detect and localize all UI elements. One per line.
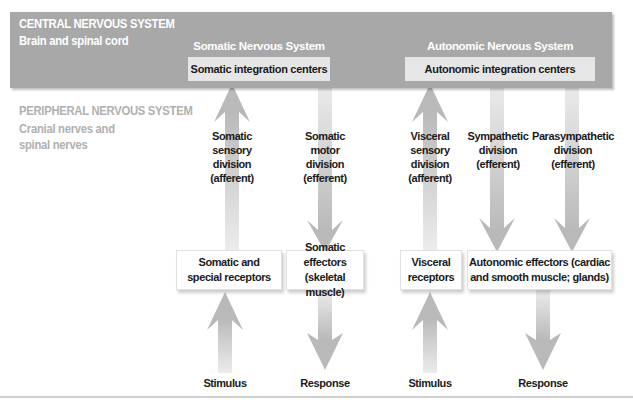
response-arrow-down-icon bbox=[525, 290, 561, 370]
pns-subtitle-line2: spinal nerves bbox=[19, 137, 115, 153]
stimulus-arrow-up-icon bbox=[207, 292, 243, 373]
division-label-sympathetic: Sympathetic division (efferent) bbox=[462, 129, 534, 171]
stimulus-label-visceral: Stimulus bbox=[400, 377, 460, 389]
division-label-somatic-motor: Somatic motor division (efferent) bbox=[289, 129, 361, 185]
pns-subtitle: Cranial nerves and spinal nerves bbox=[19, 121, 115, 153]
autonomic-effectors-box: Autonomic effectors (cardiac and smooth … bbox=[467, 250, 612, 290]
response-label-autonomic: Response bbox=[513, 377, 573, 389]
pns-title: PERIPHERAL NERVOUS SYSTEM bbox=[19, 104, 193, 118]
somatic-effectors-box: Somatic effectors (skeletal muscle) bbox=[286, 250, 364, 290]
autonomic-system-label: Autonomic Nervous System bbox=[405, 40, 595, 52]
cns-title: CENTRAL NERVOUS SYSTEM bbox=[19, 17, 175, 31]
autonomic-integration-box: Autonomic integration centers bbox=[405, 57, 595, 81]
visceral-receptors-box: Visceral receptors bbox=[400, 250, 462, 290]
cns-subtitle: Brain and spinal cord bbox=[19, 34, 128, 48]
pns-subtitle-line1: Cranial nerves and bbox=[19, 121, 115, 137]
response-arrow-down-icon bbox=[307, 290, 343, 370]
stimulus-label-somatic: Stimulus bbox=[195, 377, 255, 389]
somatic-integration-box: Somatic integration centers bbox=[188, 57, 330, 81]
somatic-system-label: Somatic Nervous System bbox=[188, 40, 330, 52]
division-label-parasympathetic: Parasympathetic division (efferent) bbox=[530, 129, 616, 171]
division-label-somatic-sensory: Somatic sensory division (afferent) bbox=[196, 129, 268, 185]
response-label-somatic: Response bbox=[295, 377, 355, 389]
division-label-visceral-sensory: Visceral sensory division (afferent) bbox=[394, 129, 466, 185]
somatic-receptors-box: Somatic and special receptors bbox=[176, 250, 282, 290]
stimulus-arrow-up-icon bbox=[412, 292, 448, 373]
bottom-divider bbox=[0, 396, 633, 398]
